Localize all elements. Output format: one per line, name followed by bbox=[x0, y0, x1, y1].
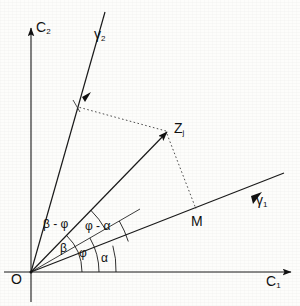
origin-point bbox=[30, 271, 33, 274]
gamma-2-axis-line bbox=[31, 12, 105, 272]
axis-label-c2: C2 bbox=[36, 20, 51, 34]
point-label-origin: O bbox=[11, 272, 22, 286]
axis-label-gamma1: γ1 bbox=[256, 193, 267, 207]
angle-label-beta-minus-phi: β - φ bbox=[43, 218, 68, 230]
angle-label-alpha: α bbox=[101, 252, 108, 264]
projection-zj-to-gamma2 bbox=[78, 107, 166, 131]
projection-zj-to-m bbox=[167, 134, 196, 209]
diagram-svg bbox=[0, 0, 300, 306]
angle-label-beta: β bbox=[60, 242, 67, 254]
figure-canvas: C2 C1 γ2 γ1 O Zj M α φ β φ - α β - φ bbox=[0, 0, 300, 306]
axis-label-c1: C1 bbox=[266, 274, 281, 288]
arc-phi-minus-alpha bbox=[119, 221, 128, 242]
point-label-zj: Zj bbox=[174, 121, 184, 135]
angle-label-phi: φ bbox=[79, 247, 87, 259]
arc-alpha bbox=[113, 246, 116, 272]
angle-label-phi-minus-alpha: φ - α bbox=[85, 220, 110, 232]
point-label-m: M bbox=[191, 214, 203, 228]
gamma-2-arrow-icon bbox=[82, 92, 91, 102]
arc-phi bbox=[90, 238, 99, 272]
gamma-1-axis-line bbox=[31, 173, 284, 272]
axis-label-gamma2: γ2 bbox=[94, 27, 105, 41]
